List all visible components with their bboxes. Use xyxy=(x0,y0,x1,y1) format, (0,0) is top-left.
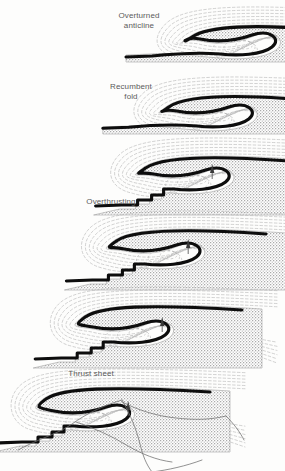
label-overturned-anticline: Overturned anticline xyxy=(108,11,170,30)
fold-thrust-evolution-diagram xyxy=(0,0,285,471)
label-recumbent-fold: Recumbent fold xyxy=(100,82,162,101)
geology-figure: Overturned anticline Recumbent fold Over… xyxy=(0,0,285,471)
stage-thrust-sheet xyxy=(0,369,245,471)
label-thrust-sheet: Thrust sheet xyxy=(48,369,134,379)
stage-overthrusting xyxy=(64,211,285,290)
label-overthrusting: Overthrusting xyxy=(68,197,154,207)
stage-advanced-overthrusting xyxy=(33,287,277,368)
